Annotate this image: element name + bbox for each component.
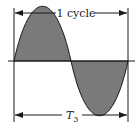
period-label: T3 — [66, 109, 78, 124]
negative-half-cycle — [71, 61, 128, 116]
sine-cycle-diagram: 1 cycle T3 — [0, 0, 137, 130]
period-subscript: 3 — [73, 115, 78, 124]
cycle-label: 1 cycle — [56, 7, 95, 20]
